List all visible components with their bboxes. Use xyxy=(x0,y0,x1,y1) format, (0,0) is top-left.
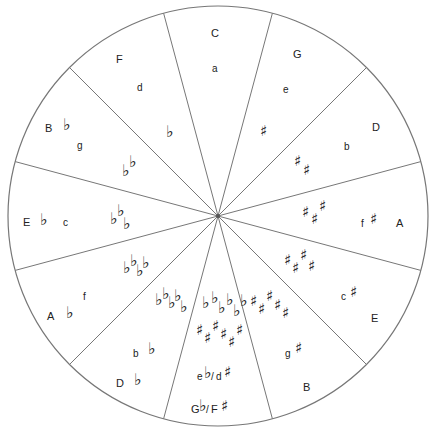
sharp-icon: ♯ xyxy=(292,259,299,277)
sharp-icon: ♯ xyxy=(274,296,281,314)
minor-key-label: c xyxy=(63,217,68,228)
sharp-icon: ♯ xyxy=(303,161,310,179)
sharp-icon: ♯ xyxy=(300,246,307,264)
sharp-icon: ♯ xyxy=(204,329,211,347)
sharp-icon: ♯ xyxy=(282,304,289,322)
sharp-icon: ♯ xyxy=(284,251,291,269)
sharp-icon: ♯ xyxy=(224,363,231,381)
sharp-icon: ♯ xyxy=(260,122,267,140)
sharp-icon: ♯ xyxy=(221,397,228,415)
flat-icon: ♭ xyxy=(134,370,142,389)
major-key-label: E xyxy=(23,216,30,228)
flat-icon: ♭ xyxy=(142,253,150,272)
minor-key-label: f xyxy=(83,291,86,302)
flat-icon: ♭ xyxy=(218,298,226,317)
major-key-label: B xyxy=(45,122,52,134)
major-key-label: A xyxy=(396,217,404,229)
sharp-icon: ♯ xyxy=(228,333,235,351)
minor-key-label: f xyxy=(361,218,364,229)
sharp-icon: ♯ xyxy=(258,300,265,318)
flat-icon: ♭ xyxy=(40,210,48,229)
center-point xyxy=(216,214,220,218)
circle-of-fifths-diagram: C a G e ♯ D b ♯ ♯ A f ♯ ♯ ♯ ♯ E c ♯ ♯ ♯ … xyxy=(0,0,433,431)
minor-key-label: e xyxy=(283,84,289,95)
major-key-label: F xyxy=(211,403,218,415)
major-key-label: F xyxy=(116,53,123,65)
major-key-label: C xyxy=(211,27,219,39)
slash-separator: / xyxy=(206,404,209,415)
minor-key-label: d xyxy=(216,371,222,382)
major-key-label: G xyxy=(293,48,302,60)
major-key-label: D xyxy=(372,121,380,133)
major-key-label: B xyxy=(303,381,310,393)
flat-icon: ♭ xyxy=(66,303,74,322)
sharp-icon: ♯ xyxy=(311,210,318,228)
major-key-label: E xyxy=(371,312,378,324)
sharp-icon: ♯ xyxy=(308,257,315,275)
major-key-label: D xyxy=(116,377,124,389)
sharp-icon: ♯ xyxy=(212,317,219,335)
minor-key-label: c xyxy=(341,291,346,302)
flat-icon: ♭ xyxy=(180,297,188,316)
flat-icon: ♭ xyxy=(63,115,71,134)
minor-key-label: d xyxy=(137,82,143,93)
sharp-icon: ♯ xyxy=(319,197,326,215)
slash-separator: / xyxy=(211,371,214,382)
sharp-icon: ♯ xyxy=(302,203,309,221)
minor-key-label: g xyxy=(285,348,291,359)
sharp-icon: ♯ xyxy=(266,287,273,305)
flat-icon: ♭ xyxy=(129,152,137,171)
minor-key-label: g xyxy=(77,140,83,151)
flat-icon: ♭ xyxy=(240,291,248,310)
sharp-icon: ♯ xyxy=(295,339,302,357)
sharp-icon: ♯ xyxy=(350,283,357,301)
minor-key-label: a xyxy=(212,63,218,74)
sharp-icon: ♯ xyxy=(236,321,243,339)
minor-key-label: b xyxy=(133,348,139,359)
sharp-icon: ♯ xyxy=(196,321,203,339)
major-key-label: A xyxy=(47,310,55,322)
flat-icon: ♭ xyxy=(148,339,156,358)
sharp-icon: ♯ xyxy=(294,152,301,170)
flat-icon: ♭ xyxy=(123,214,131,233)
flat-icon: ♭ xyxy=(166,122,174,141)
sharp-icon: ♯ xyxy=(250,292,257,310)
sharp-icon: ♯ xyxy=(220,325,227,343)
minor-key-label: b xyxy=(344,141,350,152)
minor-key-label: e xyxy=(197,371,203,382)
sharp-icon: ♯ xyxy=(370,210,377,228)
flat-icon: ♭ xyxy=(202,293,210,312)
